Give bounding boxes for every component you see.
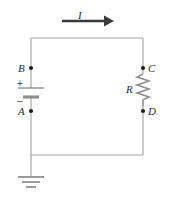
resistor-symbol — [137, 74, 149, 106]
current-arrow-head — [104, 16, 114, 27]
node-dot-a — [29, 109, 33, 113]
ground-symbol — [18, 155, 44, 187]
resistor-label: R — [126, 84, 133, 95]
node-dot-d — [141, 109, 145, 113]
node-label-b: B — [18, 63, 25, 74]
battery-positive-label: + — [17, 79, 23, 89]
circuit-diagram: I B A C D R + – — [0, 0, 169, 199]
node-dot-c — [141, 66, 145, 70]
node-dot-b — [29, 66, 33, 70]
circuit-wires — [31, 38, 143, 155]
current-arrow — [62, 16, 114, 27]
node-label-a: A — [18, 106, 25, 117]
circuit-schematic-svg — [0, 0, 169, 199]
node-label-c: C — [148, 63, 155, 74]
node-label-d: D — [148, 106, 156, 117]
battery-negative-label: – — [17, 96, 23, 106]
resistor-zigzag — [137, 74, 149, 106]
current-label: I — [78, 10, 82, 21]
